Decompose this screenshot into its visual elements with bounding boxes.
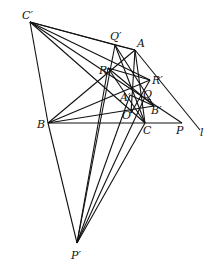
point-label-P_prime: P′ (70, 249, 81, 262)
segment-C_prime-B (30, 22, 48, 123)
point-label-A: A (136, 37, 145, 50)
diagram-lines (30, 22, 200, 243)
geometry-diagram: C′Q′ARR′A′QOB′BCPlP′ (0, 0, 219, 274)
point-label-R: R (98, 64, 107, 77)
point-label-P: P (175, 124, 184, 137)
point-label-B: B (36, 118, 45, 131)
point-label-l_end: l (200, 126, 204, 139)
point-label-Q: Q (143, 88, 152, 101)
point-label-A_prime: A′ (119, 91, 131, 104)
point-label-B_prime: B′ (150, 104, 162, 117)
point-label-O: O (122, 109, 131, 122)
segment-Q_prime-P_prime (77, 45, 115, 243)
point-label-Q_prime: Q′ (110, 30, 122, 43)
diagram-labels: C′Q′ARR′A′QOB′BCPlP′ (22, 9, 204, 262)
point-label-C: C (143, 124, 152, 137)
segment-B-P_prime (48, 123, 77, 243)
segment-Q-P_prime (77, 97, 145, 243)
point-label-R_prime: R′ (151, 74, 163, 87)
point-label-C_prime: C′ (22, 9, 33, 22)
